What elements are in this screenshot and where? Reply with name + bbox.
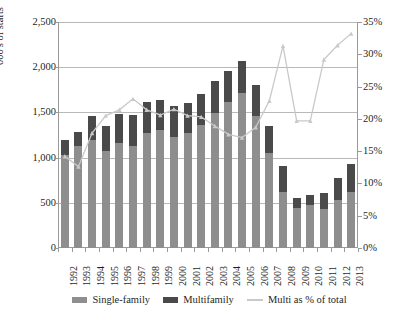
y-axis-right-tick-label: 20%: [363, 114, 407, 124]
y-axis-title: 000's of starts: [0, 0, 5, 96]
legend-item[interactable]: Multi as % of total: [247, 294, 347, 305]
legend-item[interactable]: Single-family: [72, 294, 150, 305]
legend-color-swatch: [163, 297, 178, 303]
y-axis-right-tick-label: 15%: [363, 146, 407, 156]
x-axis-tick-label: 2001: [192, 266, 202, 286]
x-axis-tick-label: 2012: [342, 266, 352, 286]
legend-label: Multi as % of total: [268, 294, 347, 305]
line-data-point[interactable]: [254, 125, 258, 129]
legend-label: Multifamily: [183, 294, 234, 305]
y-axis-tick-label: 1,000: [10, 153, 56, 163]
x-axis-tick-label: 1993: [82, 266, 92, 286]
y-axis-tick-label: 500: [10, 198, 56, 208]
line-data-point[interactable]: [349, 31, 353, 35]
y-axis-right-tick-label: 35%: [363, 17, 407, 27]
y-axis-right-tick-mark: [358, 22, 362, 23]
x-axis-tick-label: 2013: [355, 266, 365, 286]
x-axis-tick-label: 2011: [328, 266, 338, 286]
x-axis-tick-label: 2004: [232, 266, 242, 286]
x-axis-tick-label: 1997: [137, 266, 147, 286]
chart-legend: Single-familyMultifamilyMulti as % of to…: [0, 294, 419, 305]
x-axis-tick-label: 2010: [314, 266, 324, 286]
line-data-point[interactable]: [131, 97, 135, 101]
x-axis-tick-label: 1996: [123, 266, 133, 286]
legend-item[interactable]: Multifamily: [163, 294, 234, 305]
x-axis-tick-label: 1998: [151, 266, 161, 286]
y-axis-right-tick-mark: [358, 151, 362, 152]
y-axis-right-tick-mark: [358, 183, 362, 184]
y-axis-right-tick-mark: [358, 216, 362, 217]
line-series-layer: [58, 22, 358, 248]
y-axis-tick-label: 2,000: [10, 62, 56, 72]
line-series-path: [65, 34, 351, 167]
y-axis-tick-label: 1,500: [10, 107, 56, 117]
y-axis-tick-label: 2,500: [10, 17, 56, 27]
y-axis-right-tick-mark: [358, 87, 362, 88]
y-axis-right-tick-mark: [358, 54, 362, 55]
x-axis-tick-label: 2008: [287, 266, 297, 286]
line-data-point[interactable]: [281, 44, 285, 48]
plot-area: [58, 22, 358, 248]
x-axis-tick-label: 1994: [96, 266, 106, 286]
chart-container: 000's of starts 05001,0001,5002,0002,500…: [0, 0, 419, 316]
x-axis-labels: 1992199319941995199619971998199920002001…: [58, 252, 358, 290]
y-axis-right-tick-label: 25%: [363, 82, 407, 92]
x-axis-tick-label: 1999: [164, 266, 174, 286]
y-axis-right-tick-label: 30%: [363, 49, 407, 59]
legend-color-swatch: [72, 297, 87, 303]
y-axis-right-tick-mark: [358, 119, 362, 120]
legend-line-swatch: [247, 299, 263, 301]
x-axis-tick-label: 1995: [110, 266, 120, 286]
x-axis-tick-label: 2009: [301, 266, 311, 286]
y-axis-right-tick-label: 5%: [363, 211, 407, 221]
line-data-point[interactable]: [267, 99, 271, 103]
x-axis-tick-label: 2006: [260, 266, 270, 286]
x-axis-tick-mark: [358, 248, 359, 252]
y-axis-tick-label: 0: [10, 243, 56, 253]
line-data-point[interactable]: [63, 154, 67, 158]
x-axis-tick-label: 2000: [178, 266, 188, 286]
legend-label: Single-family: [92, 294, 150, 305]
x-axis-tick-label: 1992: [69, 266, 79, 286]
x-axis-tick-label: 2003: [219, 266, 229, 286]
y-axis-right-tick-label: 0%: [363, 243, 407, 253]
x-axis-tick-label: 2005: [246, 266, 256, 286]
x-axis-tick-label: 2007: [273, 266, 283, 286]
y-axis-right-tick-label: 10%: [363, 178, 407, 188]
x-axis-tick-label: 2002: [205, 266, 215, 286]
